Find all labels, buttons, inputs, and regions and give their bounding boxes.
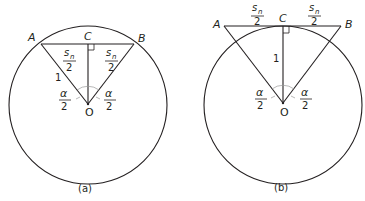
caption-a: (a) — [78, 183, 92, 194]
svg-text:2: 2 — [257, 100, 263, 111]
half-angle-left-a: α 2 — [59, 87, 71, 112]
label-c-point-b: C — [279, 12, 287, 25]
diagram-b: A B C O 1 s n 2 s n 2 α 2 α 2 (b) — [204, 2, 362, 193]
half-chord-left-b: s n 2 — [251, 2, 264, 27]
svg-text:2: 2 — [302, 100, 308, 111]
svg-text:2: 2 — [66, 62, 72, 73]
label-a-point-b: A — [212, 18, 221, 31]
svg-text:s: s — [106, 47, 111, 58]
svg-text:n: n — [258, 8, 262, 16]
svg-text:α: α — [256, 86, 264, 99]
center-dot-a — [87, 103, 89, 105]
label-o-point-b: O — [280, 106, 289, 119]
svg-text:s: s — [309, 2, 314, 13]
svg-text:2: 2 — [311, 16, 317, 27]
center-dot-b — [282, 102, 284, 104]
label-b-point-b: B — [345, 18, 353, 31]
label-b-point-a: B — [138, 32, 146, 45]
half-angle-right-b: α 2 — [300, 86, 312, 111]
label-radius-b: 1 — [273, 53, 279, 64]
half-angle-left-b: α 2 — [255, 86, 267, 111]
svg-text:α: α — [301, 86, 309, 99]
svg-text:n: n — [112, 53, 116, 61]
label-a-point-a: A — [27, 31, 36, 44]
half-chord-right-a: s n 2 — [105, 47, 118, 73]
diagram-a: A B C O 1 s n 2 s n 2 α 2 α 2 (a) — [9, 26, 167, 194]
svg-text:2: 2 — [61, 101, 67, 112]
svg-text:2: 2 — [106, 101, 112, 112]
svg-text:2: 2 — [254, 16, 260, 27]
right-angle-mark-a — [88, 44, 94, 50]
svg-text:s: s — [252, 2, 257, 13]
svg-text:n: n — [315, 8, 319, 16]
line-oa-b — [224, 26, 283, 103]
label-radius-a: 1 — [55, 72, 61, 83]
svg-text:n: n — [70, 53, 74, 61]
label-o-point-a: O — [85, 106, 94, 119]
svg-text:α: α — [60, 87, 68, 100]
svg-text:α: α — [105, 87, 113, 100]
half-chord-right-b: s n 2 — [308, 2, 321, 27]
figure-canvas: A B C O 1 s n 2 s n 2 α 2 α 2 (a) — [0, 0, 365, 201]
label-c-point-a: C — [84, 30, 92, 43]
half-angle-right-a: α 2 — [104, 87, 116, 112]
line-ob-b — [283, 26, 341, 103]
right-angle-mark-b — [283, 26, 289, 33]
svg-text:2: 2 — [108, 62, 114, 73]
caption-b: (b) — [274, 182, 288, 193]
half-chord-left-a: s n 2 — [63, 47, 76, 73]
svg-text:s: s — [64, 47, 69, 58]
